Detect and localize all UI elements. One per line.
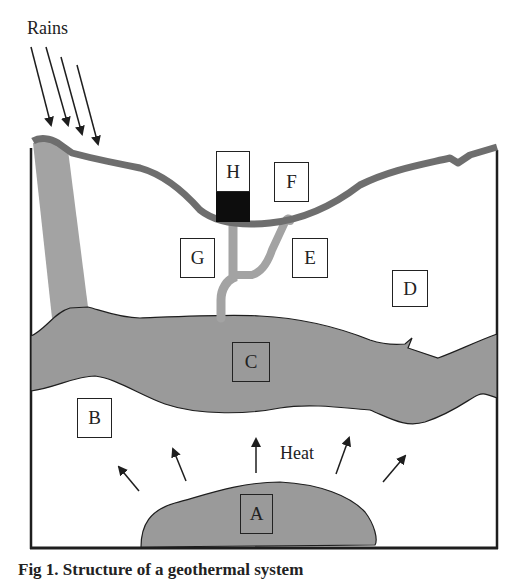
recharge-channel — [33, 140, 88, 318]
power-plant-block — [216, 192, 250, 222]
ground-surface — [33, 139, 497, 224]
box-d: D — [392, 270, 428, 307]
fluid-conduits — [221, 218, 290, 318]
rains-label: Rains — [27, 18, 68, 39]
rain-arrows — [31, 47, 98, 144]
box-f: F — [274, 162, 309, 202]
heat-label: Heat — [280, 443, 314, 464]
box-c: C — [232, 342, 270, 382]
box-e: E — [292, 238, 328, 278]
box-g: G — [180, 238, 215, 278]
box-h: H — [216, 151, 250, 192]
box-b: B — [77, 398, 112, 438]
figure-caption: Fig 1. Structure of a geothermal system — [18, 560, 303, 580]
box-a: A — [240, 494, 273, 534]
